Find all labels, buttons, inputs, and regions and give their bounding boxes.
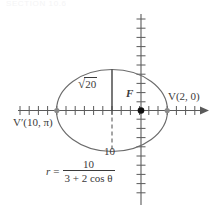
semi-minor-axis-label: √20 [78,77,97,90]
equation-fraction: 10 3 + 2 cos θ [63,158,115,185]
vertex-right-dot [165,108,170,113]
x-axis [18,106,209,115]
focus-label: F [126,88,133,99]
x-axis-arrowhead [200,107,209,115]
equation-denominator: 3 + 2 cos θ [63,171,115,184]
width-caption-label: 10 [104,146,115,157]
radical-group: √20 [78,77,97,90]
equation-equals-sign: = [53,165,59,177]
focus-dot [138,107,145,114]
equation-numerator: 10 [79,158,98,170]
vertex-left-dot [54,108,59,113]
vertex-left-label: V′(10, π) [13,117,53,128]
equation-lhs: r [46,165,50,177]
polar-conic-figure: SECTION 10.6 [0,0,215,214]
polar-equation: r = 10 3 + 2 cos θ [46,158,115,185]
vertex-right-label: V(2, 0) [168,91,200,102]
radicand-value: 20 [84,77,97,90]
